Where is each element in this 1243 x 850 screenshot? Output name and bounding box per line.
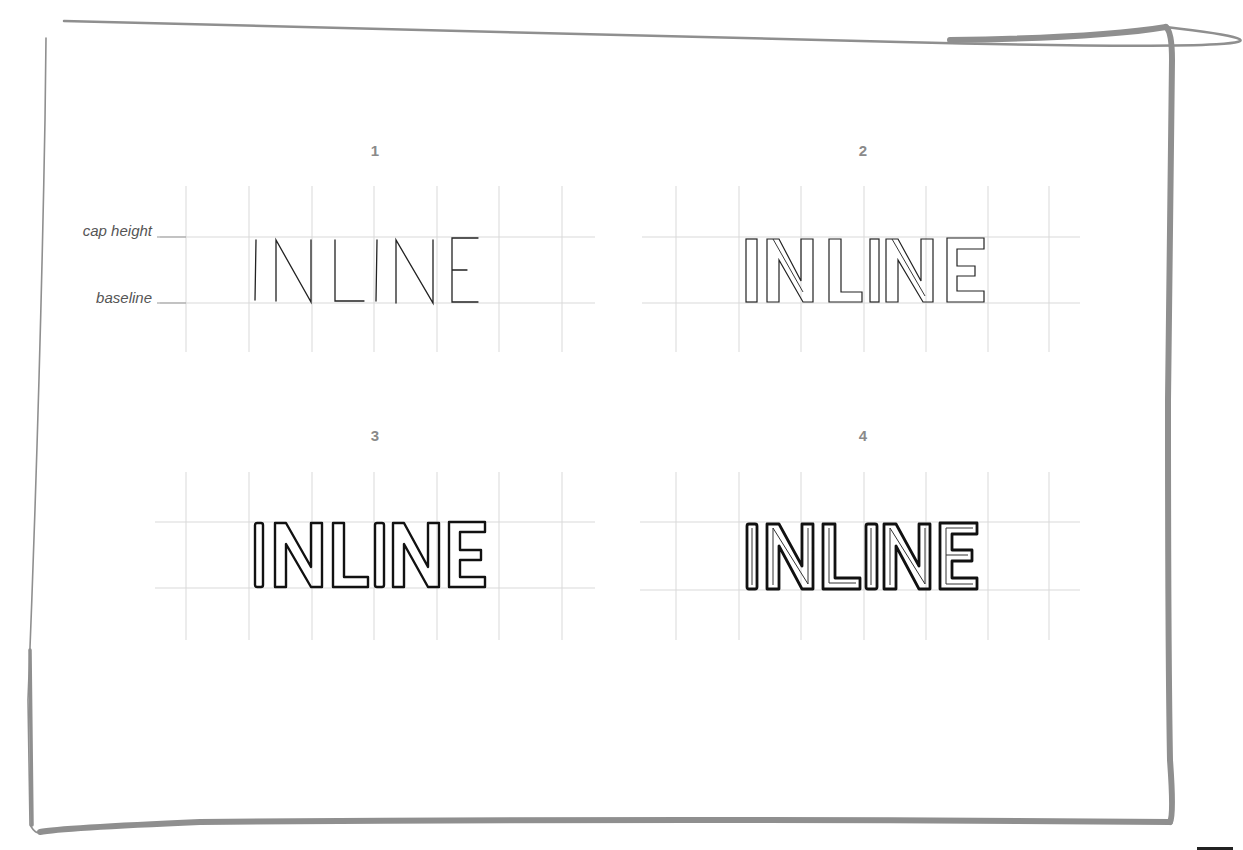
cap-height-label: cap height	[12, 222, 152, 239]
panel-number-1: 1	[355, 142, 395, 159]
panel-number-2: 2	[843, 142, 883, 159]
frame-border	[28, 21, 1241, 833]
panel-3-lettering	[255, 522, 485, 587]
panel-4-lettering	[747, 523, 977, 589]
panel-number-4: 4	[843, 427, 883, 444]
panel-1-grid	[160, 186, 595, 352]
baseline-label: baseline	[12, 289, 152, 306]
panel-2-grid	[642, 186, 1080, 352]
panel-4-grid	[640, 472, 1080, 640]
panel-1-lettering	[255, 238, 478, 303]
lettering-sheet: cap height baseline 1 2 3 4	[0, 0, 1243, 850]
panel-number-3: 3	[355, 427, 395, 444]
panel-2-lettering	[746, 238, 984, 302]
